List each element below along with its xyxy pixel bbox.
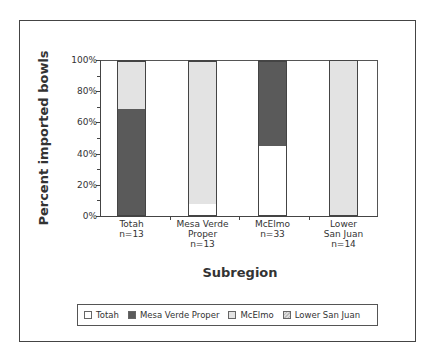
legend-label: Mesa Verde Proper: [140, 310, 220, 320]
bar-3: [329, 60, 358, 216]
x-tick: [170, 216, 171, 220]
x-axis-title: Subregion: [202, 265, 277, 280]
bar-segment: [330, 61, 357, 215]
legend-label: McElmo: [240, 310, 273, 320]
bar-segment: [259, 61, 286, 146]
legend-item-mcelmo: McElmo: [228, 310, 273, 320]
x-tick-label: LowerSan Juann=14: [324, 219, 363, 249]
x-tick-label: Mesa VerdePropern=13: [176, 219, 228, 249]
bar-segment: [259, 146, 286, 215]
swatch-icon: [128, 311, 136, 319]
y-tick-label: 0%: [83, 211, 97, 221]
hatched-swatch-icon: [283, 311, 291, 319]
bar-2: [258, 60, 287, 216]
y-tick-label: 80%: [77, 86, 97, 96]
y-tick: [97, 107, 100, 108]
swatch-icon: [84, 311, 92, 319]
y-axis-title: Percent imported bowls: [36, 50, 51, 225]
x-tick: [239, 216, 240, 220]
legend: Totah Mesa Verde Proper McElmo Lower San…: [77, 304, 378, 326]
bar-segment: [118, 109, 145, 215]
bar-segment: [118, 61, 145, 109]
y-tick: [97, 169, 100, 170]
x-tick: [309, 216, 310, 220]
y-tick: [97, 200, 100, 201]
bar-1: [188, 60, 217, 216]
y-tick-label: 40%: [77, 149, 97, 159]
legend-item-lower-san-juan: Lower San Juan: [283, 310, 360, 320]
bar-0: [117, 60, 146, 216]
x-tick-label: Totahn=13: [119, 219, 144, 239]
x-tick-label: McElmon=33: [255, 219, 290, 239]
legend-item-mesa-verde-proper: Mesa Verde Proper: [128, 310, 220, 320]
y-tick-label: 60%: [77, 117, 97, 127]
x-axis-line: [96, 216, 378, 217]
legend-item-totah: Totah: [84, 310, 119, 320]
legend-label: Totah: [96, 310, 119, 320]
y-tick: [97, 138, 100, 139]
y-tick-label: 100%: [71, 55, 97, 65]
y-axis-line: [100, 60, 101, 216]
bar-segment: [189, 61, 216, 204]
legend-label: Lower San Juan: [295, 310, 360, 320]
bar-segment: [189, 204, 216, 215]
y-tick: [97, 76, 100, 77]
y-tick-label: 20%: [77, 180, 97, 190]
swatch-icon: [228, 311, 236, 319]
